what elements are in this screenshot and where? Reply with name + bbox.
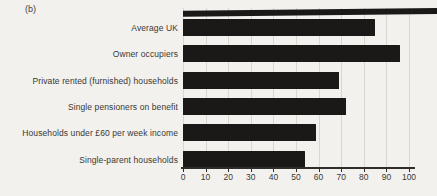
- x-tick-label-100: 100: [394, 172, 424, 182]
- bar-3: [183, 72, 339, 89]
- x-axis-line: [181, 167, 415, 169]
- gridline-90: [386, 8, 387, 168]
- bar-1: [183, 19, 375, 36]
- category-label-6: Single-parent households: [0, 155, 178, 165]
- category-label-2: Owner occupiers: [0, 49, 178, 59]
- bar-2: [183, 45, 400, 62]
- category-label-1: Average UK: [0, 23, 178, 33]
- category-label-3: Private rented (furnished) households: [0, 76, 178, 86]
- bar-6: [183, 151, 305, 168]
- bar-4: [183, 98, 346, 115]
- scanned-bar-chart-panel-b: (b) Average UKOwner occupiersPrivate ren…: [0, 0, 437, 196]
- bar-5: [183, 124, 316, 141]
- category-label-5: Households under £60 per week income: [0, 128, 178, 138]
- cropped-bar-sliver: [183, 8, 437, 17]
- gridline-100: [409, 8, 410, 168]
- category-label-4: Single pensioners on benefit: [0, 102, 178, 112]
- figure-label: (b): [25, 4, 36, 14]
